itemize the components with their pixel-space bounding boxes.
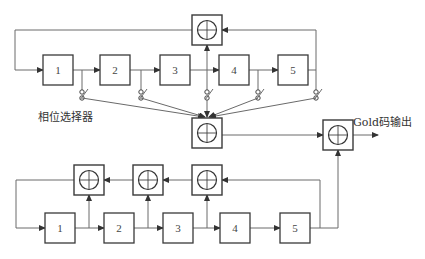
top-stage-3-label: 3	[160, 55, 190, 85]
top-stage-1-label: 1	[43, 55, 73, 85]
phase-selector-switches	[80, 89, 322, 117]
top-stage-5-label: 5	[278, 55, 308, 85]
bottom-stage-2-label: 2	[104, 213, 134, 243]
gold-output-label: Gold码输出	[353, 113, 412, 129]
xor-output	[323, 120, 353, 150]
top-stage-4-label: 4	[219, 55, 249, 85]
phase-selector-label: 相位选择器	[38, 108, 93, 124]
bottom-stage-5-label: 5	[280, 213, 310, 243]
gold-code-generator-diagram: 1 2 3 4 5 1 2 3 4 5 相位选择器 Gold码输出	[0, 0, 425, 259]
xor-bottom-3	[192, 165, 222, 195]
xor-bottom-2	[133, 165, 163, 195]
bottom-stage-1-label: 1	[45, 213, 75, 243]
xor-bottom-1	[74, 165, 104, 195]
bottom-stage-4-label: 4	[220, 213, 250, 243]
bottom-stage-3-label: 3	[163, 213, 193, 243]
top-stage-2-label: 2	[100, 55, 130, 85]
xor-middle	[192, 118, 222, 148]
switch-3[interactable]	[205, 89, 213, 100]
xor-top	[192, 15, 222, 45]
